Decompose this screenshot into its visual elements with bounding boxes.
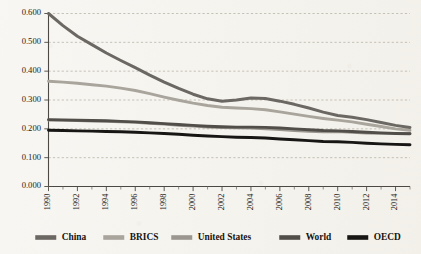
chart-canvas: 0.0000.1000.2000.3000.4000.5000.600 1990…	[0, 0, 421, 254]
y-tick-label-0.200: 0.200	[22, 123, 41, 133]
x-tick-label-1994: 1994	[101, 193, 110, 211]
legend-swatch-china	[35, 235, 56, 240]
x-tick-label-2002: 2002	[217, 194, 226, 211]
x-tick-label-1990: 1990	[43, 194, 52, 211]
x-tick-label-2006: 2006	[275, 194, 284, 211]
legend-item-brics[interactable]: BRICS	[103, 232, 158, 242]
series-line-brics	[49, 81, 411, 130]
x-tick-label-2010: 2010	[333, 194, 342, 211]
y-tick-label-0.400: 0.400	[22, 65, 41, 75]
legend-item-china[interactable]: China	[35, 232, 86, 242]
legend-swatch-oecd	[347, 235, 368, 240]
x-tick-label-2008: 2008	[304, 194, 313, 211]
x-tick-label-2012: 2012	[362, 194, 371, 211]
x-tick-label-2014: 2014	[390, 193, 399, 211]
y-tick-label-0.300: 0.300	[22, 94, 41, 104]
data-series	[49, 14, 411, 145]
legend-swatch-brics	[103, 235, 124, 240]
y-tick-label-0.500: 0.500	[22, 36, 41, 46]
legend-swatch-world	[279, 235, 300, 240]
legend-item-oecd[interactable]: OECD	[347, 232, 401, 242]
y-tick-label-0.000: 0.000	[22, 180, 41, 190]
legend-label-china: China	[62, 232, 87, 242]
line-chart-figure: 0.0000.1000.2000.3000.4000.5000.600 1990…	[0, 0, 421, 254]
y-tick-label-0.100: 0.100	[22, 152, 41, 162]
legend-label-united-states: United States	[198, 232, 252, 242]
x-tick-label-1998: 1998	[159, 194, 168, 211]
legend-swatch-united-states	[171, 235, 192, 240]
y-tick-label-0.600: 0.600	[22, 7, 41, 17]
legend-label-oecd: OECD	[374, 232, 401, 242]
legend-label-brics: BRICS	[130, 232, 159, 242]
x-tick-label-1996: 1996	[130, 194, 139, 211]
x-axis-tick-labels: 1990199219941996199820002002200420062008…	[43, 193, 399, 211]
legend-item-united-states[interactable]: United States	[171, 232, 251, 242]
y-axis-tick-labels: 0.0000.1000.2000.3000.4000.5000.600	[22, 7, 41, 190]
legend-label-world: World	[306, 232, 332, 242]
series-line-china	[49, 14, 411, 128]
x-tick-label-1992: 1992	[72, 194, 81, 211]
chart-legend: ChinaBRICSUnited StatesWorldOECD	[35, 232, 401, 242]
x-tick-label-2004: 2004	[246, 193, 255, 211]
legend-item-world[interactable]: World	[279, 232, 332, 242]
x-tick-label-2000: 2000	[188, 194, 197, 211]
